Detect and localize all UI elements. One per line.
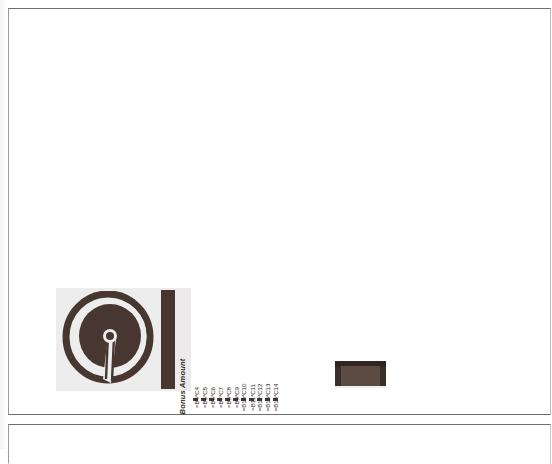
chart-plot-area [56,288,160,391]
legend-item[interactable]: =B11*C11 [248,339,256,401]
bar-front-face [340,366,381,388]
bar-bottom-edge [335,386,386,388]
legend-item[interactable]: =B9*C9 [232,339,240,401]
legend-item[interactable]: =B10*C10 [240,339,248,401]
legend-item-label: =B11*C11 [249,384,256,411]
chart-legend[interactable]: =B4*C4 =B5*C5 =B6*C6 =B7*C7 =B8*C8 =B9*C… [192,339,274,401]
legend-item[interactable]: =B5*C5 [200,339,208,401]
three-d-bar-graphic [335,361,386,388]
legend-item-label: =B10*C10 [241,384,248,412]
bar-series-column [161,290,175,389]
document-page-1: Bonus Amount =B4*C4 =B5*C5 =B6*C6 =B7*C7… [8,8,551,415]
legend-item-label: =B5*C5 [201,387,208,408]
scan-left-margin [0,0,8,449]
legend-item[interactable]: =B4*C4 [192,339,200,401]
embedded-chart[interactable]: Bonus Amount [56,288,191,391]
doughnut-chart-graphic [62,291,154,388]
legend-item[interactable]: =B7*C7 [216,339,224,401]
document-page-2 [8,424,551,464]
legend-item-label: =B9*C9 [233,387,240,408]
legend-item-label: =B7*C7 [217,387,224,408]
legend-item-label: =B4*C4 [193,387,200,408]
legend-item[interactable]: =B6*C6 [208,339,216,401]
legend-item[interactable]: =B14*C14 [272,339,280,401]
legend-item[interactable]: =B8*C8 [224,339,232,401]
legend-item-label: =B6*C6 [209,387,216,408]
legend-item[interactable]: =B13*C13 [264,339,272,401]
legend-item-label: =B13*C13 [265,384,272,412]
legend-item-label: =B12*C12 [257,384,264,412]
legend-item-label: =B8*C8 [225,387,232,408]
legend-item-label: =B14*C14 [273,384,280,412]
chart-axis-title: Bonus Amount [175,288,191,391]
legend-item[interactable]: =B12*C12 [256,339,264,401]
chart-axis-title-text: Bonus Amount [179,359,188,415]
